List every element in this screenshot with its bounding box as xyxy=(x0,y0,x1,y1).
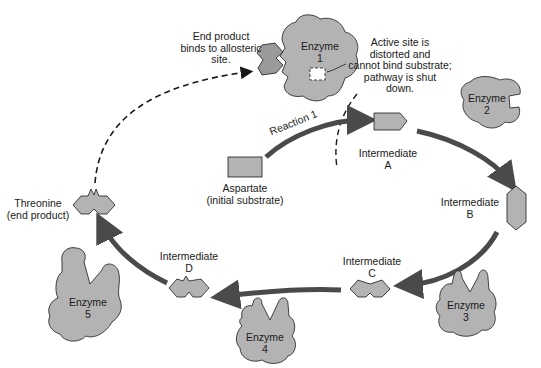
threonine-role: (end product) xyxy=(4,210,72,222)
intermediate-d-name: Intermediate xyxy=(157,251,221,263)
intermediate-c-name: Intermediate xyxy=(340,256,404,268)
enzyme-5-number: 5 xyxy=(63,309,113,321)
intermediate-a-shape xyxy=(374,113,407,130)
intermediate-d-label: Intermediate D xyxy=(157,251,221,274)
arrow-a-to-b xyxy=(417,131,508,180)
enzyme-1-name: Enzyme xyxy=(295,41,345,53)
intermediate-c-letter: C xyxy=(340,268,404,280)
allosteric-line-3: site. xyxy=(177,54,265,66)
threonine-name: Threonine xyxy=(4,198,72,210)
enzyme-4-number: 4 xyxy=(240,344,290,356)
intermediate-d-shape xyxy=(169,276,209,297)
enzyme-5-label: Enzyme 5 xyxy=(63,297,113,320)
aspartate-shape xyxy=(228,157,262,177)
intermediate-b-shape xyxy=(507,186,526,230)
enzyme-2-label: Enzyme 2 xyxy=(465,93,509,116)
distorted-active-site xyxy=(310,68,325,80)
active-site-line-1: Active site is xyxy=(345,37,455,49)
intermediate-b-label: Intermediate B xyxy=(438,197,502,220)
intermediate-a-label: Intermediate A xyxy=(356,148,420,171)
enzyme-2-name: Enzyme xyxy=(465,93,509,105)
arrow-c-to-d xyxy=(225,289,341,296)
active-site-line-3: cannot bind substrate; xyxy=(345,60,455,72)
intermediate-a-name: Intermediate xyxy=(356,148,420,160)
enzyme-4-label: Enzyme 4 xyxy=(240,332,290,355)
aspartate-label: Aspartate (initial substrate) xyxy=(205,183,285,206)
intermediate-b-letter: B xyxy=(438,209,502,221)
enzyme-2-number: 2 xyxy=(465,105,509,117)
active-site-annotation: Active site is distorted and cannot bind… xyxy=(345,37,455,95)
shutdown-dashed-line xyxy=(336,94,357,168)
enzyme-3-label: Enzyme 3 xyxy=(442,300,490,323)
intermediate-a-letter: A xyxy=(356,160,420,172)
enzyme-5-name: Enzyme xyxy=(63,297,113,309)
intermediate-d-letter: D xyxy=(157,263,221,275)
active-site-line-5: down. xyxy=(345,83,455,95)
enzyme-5-shape xyxy=(49,248,122,341)
feedback-inhibition-diagram: End product binds to allosteric site. Ac… xyxy=(0,0,541,368)
enzyme-1-label: Enzyme 1 xyxy=(295,41,345,64)
intermediate-c-shape xyxy=(350,280,390,297)
threonine-shape xyxy=(73,189,115,214)
allosteric-line-1: End product xyxy=(177,31,265,43)
intermediate-c-label: Intermediate C xyxy=(340,256,404,279)
enzyme-3-name: Enzyme xyxy=(442,300,490,312)
aspartate-role: (initial substrate) xyxy=(205,195,285,207)
feedback-dashed-arrow xyxy=(95,72,247,183)
aspartate-name: Aspartate xyxy=(205,183,285,195)
enzyme-4-name: Enzyme xyxy=(240,332,290,344)
allosteric-annotation: End product binds to allosteric site. xyxy=(177,31,265,66)
intermediate-b-name: Intermediate xyxy=(438,197,502,209)
threonine-label: Threonine (end product) xyxy=(4,198,72,221)
enzyme-3-number: 3 xyxy=(442,312,490,324)
enzyme-1-number: 1 xyxy=(295,53,345,65)
